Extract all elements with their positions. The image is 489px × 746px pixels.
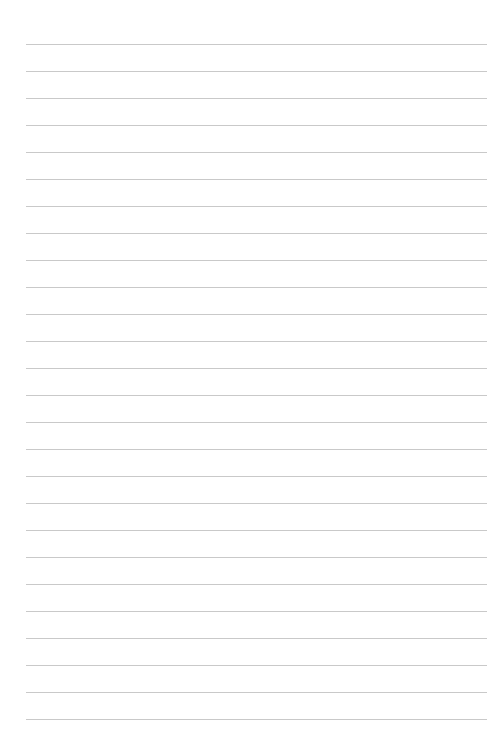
ruled-line (26, 98, 487, 99)
ruled-line (26, 665, 487, 666)
ruled-line (26, 476, 487, 477)
ruled-line (26, 125, 487, 126)
ruled-line (26, 503, 487, 504)
ruled-line (26, 449, 487, 450)
ruled-line (26, 638, 487, 639)
ruled-line (26, 314, 487, 315)
ruled-line (26, 71, 487, 72)
ruled-line (26, 206, 487, 207)
ruled-line (26, 233, 487, 234)
ruled-line (26, 179, 487, 180)
ruled-line (26, 341, 487, 342)
ruled-line (26, 260, 487, 261)
ruled-line (26, 44, 487, 45)
ruled-line (26, 395, 487, 396)
ruled-line (26, 611, 487, 612)
ruled-line (26, 557, 487, 558)
ruled-line (26, 530, 487, 531)
ruled-line (26, 152, 487, 153)
ruled-line (26, 692, 487, 693)
ruled-line (26, 584, 487, 585)
ruled-line (26, 719, 487, 720)
ruled-line (26, 422, 487, 423)
ruled-line (26, 287, 487, 288)
lined-paper-page (0, 0, 489, 746)
ruled-line (26, 368, 487, 369)
